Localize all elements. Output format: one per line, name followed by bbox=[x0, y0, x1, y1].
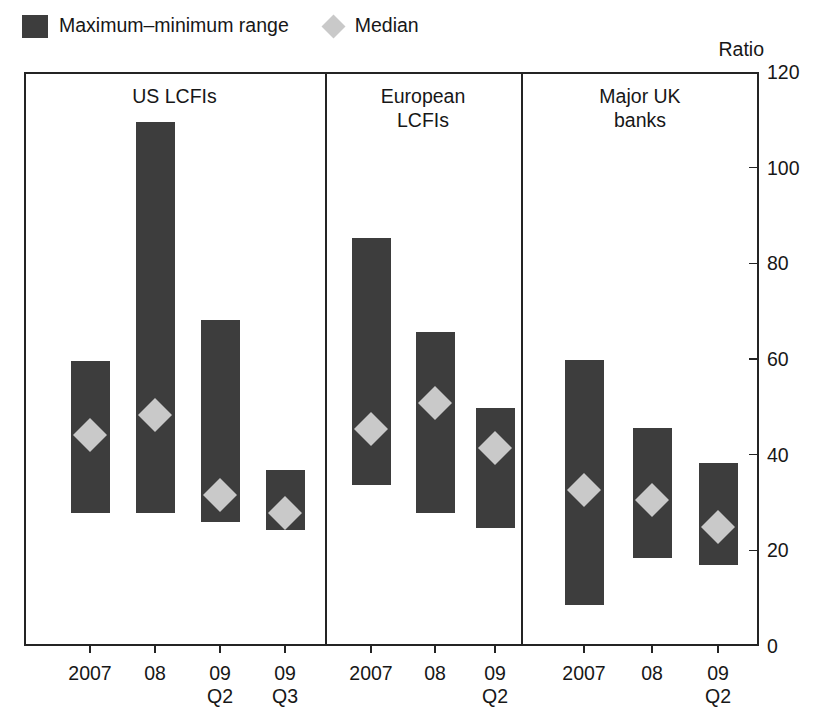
range-bar bbox=[416, 332, 455, 513]
legend-label-median: Median bbox=[355, 16, 419, 36]
range-bar bbox=[352, 238, 391, 485]
x-axis-tick bbox=[651, 644, 653, 653]
x-axis-tick-label: 08 bbox=[641, 662, 663, 685]
plot-border-left bbox=[24, 72, 26, 646]
panel-title-us-lcfis: US LCFIs bbox=[132, 84, 217, 108]
x-axis-tick-label: 09 Q3 bbox=[272, 662, 298, 708]
legend-item-range: Maximum–minimum range bbox=[22, 15, 289, 38]
x-axis-tick bbox=[717, 644, 719, 653]
range-bar bbox=[136, 122, 175, 513]
x-axis-tick-label: 2007 bbox=[68, 662, 111, 685]
y-axis-tick bbox=[749, 550, 758, 552]
legend-label-range: Maximum–minimum range bbox=[59, 16, 289, 36]
x-axis-tick bbox=[583, 644, 585, 653]
y-axis-unit-label: Ratio bbox=[718, 38, 764, 61]
panel-divider bbox=[325, 72, 327, 646]
plot-border-bottom bbox=[24, 644, 759, 646]
plot-border-top bbox=[24, 72, 759, 74]
y-axis-tick-label: 100 bbox=[767, 156, 800, 179]
chart-legend: Maximum–minimum range Median bbox=[22, 14, 419, 38]
x-axis-tick-label: 2007 bbox=[349, 662, 392, 685]
x-axis-tick-label: 2007 bbox=[562, 662, 605, 685]
x-axis-tick-label: 09 Q2 bbox=[482, 662, 508, 708]
y-axis-tick bbox=[749, 358, 758, 360]
panel-title-european-lcfis: European LCFIs bbox=[381, 84, 466, 132]
x-axis-tick-label: 08 bbox=[144, 662, 166, 685]
y-axis-tick-label: 0 bbox=[767, 635, 778, 658]
chart-plot-area: 020406080100120 bbox=[24, 72, 759, 646]
y-axis-tick bbox=[749, 167, 758, 169]
y-axis-tick bbox=[749, 454, 758, 456]
x-axis-tick bbox=[284, 644, 286, 653]
x-axis-tick bbox=[494, 644, 496, 653]
y-axis-tick-label: 60 bbox=[767, 348, 789, 371]
x-axis-tick bbox=[154, 644, 156, 653]
legend-item-median: Median bbox=[323, 16, 419, 36]
x-axis-tick bbox=[370, 644, 372, 653]
panel-title-major-uk-banks: Major UK banks bbox=[599, 84, 680, 132]
y-axis-tick-label: 120 bbox=[767, 61, 800, 84]
y-axis-tick-label: 20 bbox=[767, 539, 789, 562]
x-axis-tick bbox=[89, 644, 91, 653]
y-axis-tick bbox=[749, 263, 758, 265]
panel-divider bbox=[521, 72, 523, 646]
y-axis-tick-label: 40 bbox=[767, 443, 789, 466]
x-axis-tick bbox=[434, 644, 436, 653]
x-axis-tick-label: 08 bbox=[424, 662, 446, 685]
x-axis-tick-label: 09 Q2 bbox=[207, 662, 233, 708]
x-axis-tick bbox=[219, 644, 221, 653]
x-axis-tick-label: 09 Q2 bbox=[705, 662, 731, 708]
median-diamond-icon bbox=[321, 14, 345, 38]
range-swatch-icon bbox=[22, 15, 48, 38]
range-bar bbox=[476, 408, 515, 528]
y-axis-tick-label: 80 bbox=[767, 252, 789, 275]
